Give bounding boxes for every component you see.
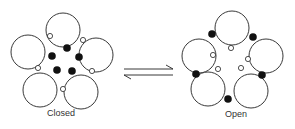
open-site-dot <box>47 33 52 38</box>
subunit-circle <box>23 73 57 107</box>
equilibrium-arrows-icon <box>124 65 173 79</box>
open-state-ring <box>182 11 283 108</box>
open-site-dot <box>89 68 94 73</box>
subunit-circle <box>46 13 80 47</box>
subunit-circle <box>215 11 249 45</box>
open-site-dot <box>35 65 40 70</box>
filled-site-dot <box>192 70 200 78</box>
filled-site-dot <box>68 67 76 75</box>
open-site-dot <box>210 52 215 57</box>
subunit-circle <box>234 74 268 108</box>
subunit-circle <box>249 39 283 73</box>
filled-site-dot <box>208 30 216 38</box>
filled-site-dot <box>53 66 61 74</box>
subunit-circle <box>64 75 98 109</box>
equilibrium-diagram <box>0 0 295 129</box>
subunit-circle <box>79 38 113 72</box>
closed-state-ring <box>11 13 113 109</box>
open-site-dot <box>215 66 220 71</box>
open-site-dot <box>60 86 65 91</box>
open-site-dot <box>245 56 250 61</box>
filled-site-dot <box>48 52 56 60</box>
subunit-circle <box>11 35 45 69</box>
filled-site-dot <box>75 53 83 61</box>
filled-site-dot <box>224 95 232 103</box>
closed-label: Closed <box>47 108 75 118</box>
open-site-dot <box>80 37 85 42</box>
open-site-dot <box>238 65 243 70</box>
filled-site-dot <box>63 44 71 52</box>
open-site-dot <box>228 45 233 50</box>
filled-site-dot <box>249 33 257 41</box>
open-label: Open <box>225 109 247 119</box>
filled-site-dot <box>258 71 266 79</box>
